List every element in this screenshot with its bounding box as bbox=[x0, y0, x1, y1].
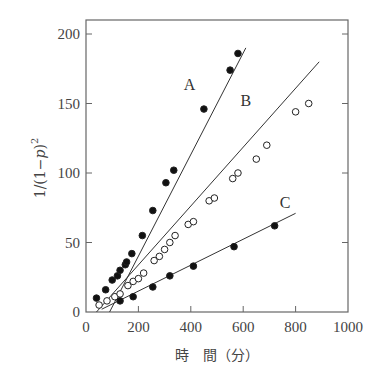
y-tick-label: 200 bbox=[58, 26, 81, 42]
data-point-b bbox=[140, 270, 147, 277]
data-point-b bbox=[305, 100, 312, 107]
fit-line-b bbox=[96, 62, 319, 312]
y-tick-label: 50 bbox=[65, 235, 80, 251]
data-point-a bbox=[129, 250, 136, 257]
data-point-b bbox=[96, 302, 103, 309]
data-point-b bbox=[253, 156, 260, 163]
data-point-a bbox=[163, 179, 170, 186]
data-point-c bbox=[150, 284, 157, 291]
data-point-b bbox=[104, 298, 111, 305]
data-point-a bbox=[170, 167, 177, 174]
x-axis-title: 時 間（分） bbox=[175, 347, 259, 363]
series-label-a: A bbox=[184, 76, 196, 93]
data-point-b bbox=[156, 253, 163, 260]
data-point-c bbox=[231, 243, 238, 250]
data-point-b bbox=[235, 170, 242, 177]
x-tick-label: 1000 bbox=[333, 319, 363, 335]
series-labels: ABC bbox=[184, 76, 291, 211]
y-tick-label: 100 bbox=[58, 165, 81, 181]
data-point-a bbox=[123, 259, 130, 266]
data-point-b bbox=[229, 175, 236, 182]
data-point-c bbox=[117, 298, 124, 305]
data-point-b bbox=[117, 291, 124, 298]
x-tick-label: 0 bbox=[82, 319, 90, 335]
data-point-b bbox=[172, 232, 179, 239]
y-axis-title-group: 1/(1−p)2 bbox=[29, 138, 48, 199]
data-point-a bbox=[150, 207, 157, 214]
data-point-b bbox=[167, 239, 174, 246]
data-point-b bbox=[190, 218, 197, 225]
x-tick-label: 800 bbox=[284, 319, 307, 335]
data-point-a bbox=[93, 295, 100, 302]
data-point-a bbox=[227, 67, 234, 74]
data-point-a bbox=[139, 232, 146, 239]
data-point-b bbox=[135, 275, 142, 282]
data-point-c bbox=[190, 263, 197, 270]
data-point-a bbox=[235, 50, 242, 57]
y-tick-label: 0 bbox=[73, 304, 81, 320]
y-axis-title: 1/(1−p)2 bbox=[29, 138, 48, 199]
data-point-b bbox=[211, 195, 218, 202]
data-points bbox=[93, 50, 312, 308]
data-point-a bbox=[201, 106, 208, 113]
data-point-b bbox=[263, 142, 270, 149]
series-label-c: C bbox=[280, 194, 291, 211]
data-point-c bbox=[130, 293, 137, 300]
y-tick-label: 150 bbox=[58, 96, 81, 112]
data-point-b bbox=[161, 246, 168, 253]
data-point-c bbox=[271, 223, 278, 230]
series-label-b: B bbox=[240, 92, 251, 109]
x-tick-label: 400 bbox=[180, 319, 203, 335]
fit-lines bbox=[96, 48, 319, 312]
fit-line-a bbox=[110, 48, 246, 312]
chart: 02004006008001000050100150200 ABC 時 間（分）… bbox=[0, 0, 377, 384]
data-point-a bbox=[117, 267, 124, 274]
data-point-a bbox=[102, 286, 109, 293]
x-tick-label: 600 bbox=[232, 319, 255, 335]
x-tick-label: 200 bbox=[127, 319, 150, 335]
data-point-c bbox=[167, 273, 174, 280]
data-point-b bbox=[292, 109, 299, 116]
